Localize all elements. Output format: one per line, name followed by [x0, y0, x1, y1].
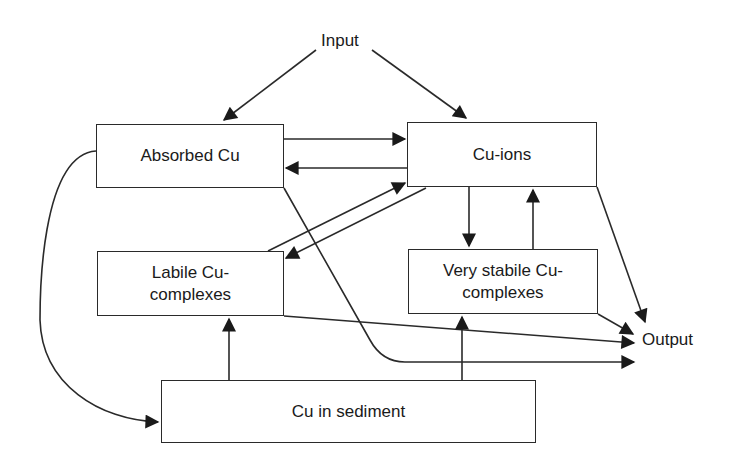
node-absorbed-cu: Absorbed Cu	[96, 124, 284, 188]
node-labile-label-line1: Labile Cu-	[152, 262, 230, 284]
arrow-stabile-to-output	[598, 314, 633, 334]
node-absorbed-cu-label: Absorbed Cu	[140, 145, 239, 167]
node-labile-label-line2: complexes	[150, 284, 231, 306]
node-sediment-label: Cu in sediment	[292, 401, 405, 423]
node-cu-ions: Cu-ions	[407, 122, 597, 187]
node-stabile-label-line1: Very stabile Cu-	[443, 260, 563, 282]
output-label: Output	[642, 330, 693, 350]
node-cu-ions-label: Cu-ions	[473, 144, 532, 166]
arrow-input-to-absorbed	[224, 50, 316, 120]
arrow-ions-to-output	[597, 187, 645, 322]
arrow-ions-to-labile	[286, 188, 426, 258]
node-stabile-label-line2: complexes	[462, 282, 543, 304]
input-label: Input	[321, 31, 359, 51]
arrow-labile-to-output	[284, 316, 634, 343]
arrow-input-to-ions	[372, 50, 466, 118]
arrow-labile-to-ions	[268, 183, 405, 251]
node-very-stabile-cu-complexes: Very stabile Cu- complexes	[408, 249, 598, 314]
node-labile-cu-complexes: Labile Cu- complexes	[97, 251, 284, 316]
node-cu-in-sediment: Cu in sediment	[161, 380, 536, 443]
